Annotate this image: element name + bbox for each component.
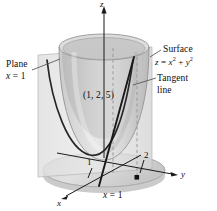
x-axis-label: x bbox=[57, 198, 61, 208]
plane-annotation-equation: x = 1 bbox=[6, 71, 26, 82]
surface-annotation-equation: z = x2 + y2 bbox=[155, 57, 193, 67]
base-plane-label: x = 1 bbox=[103, 190, 123, 201]
figure-canvas: z y x 1 2 Plane x = 1 Surface z = x2 + y… bbox=[0, 0, 217, 211]
surface-annotation-title: Surface bbox=[163, 44, 193, 55]
diagram-svg bbox=[0, 0, 217, 211]
base-plane-label-rhs: = 1 bbox=[110, 190, 123, 200]
tangent-point-label: (1, 2, 5) bbox=[83, 90, 114, 101]
tangent-annotation-title: Tangent bbox=[157, 73, 188, 84]
plane-annotation-equation-rhs: = 1 bbox=[13, 71, 26, 81]
base-point-marker bbox=[135, 175, 140, 180]
surface-eq-y-exponent: 2 bbox=[190, 56, 193, 62]
y-axis-label: y bbox=[181, 169, 185, 179]
plane-annotation-title: Plane bbox=[6, 59, 28, 70]
z-axis-label: z bbox=[100, 0, 104, 9]
tangent-annotation-subtitle: line bbox=[157, 85, 172, 96]
x-tick-label-1: 1 bbox=[87, 157, 92, 167]
y-tick-label-2: 2 bbox=[144, 150, 149, 160]
